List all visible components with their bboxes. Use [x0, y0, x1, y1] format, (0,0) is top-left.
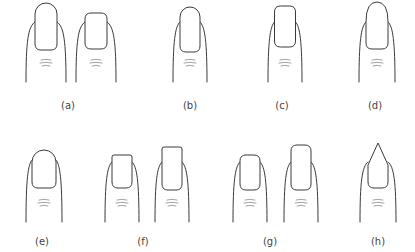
knuckle-crease [116, 199, 128, 206]
knuckle-crease [295, 199, 307, 206]
finger-pointed-icon [360, 143, 396, 222]
knuckle-crease [166, 199, 178, 206]
nail-oval [180, 7, 200, 52]
nail-round [32, 150, 56, 188]
panel-label-a: (a) [61, 100, 75, 111]
nail-short-rounded-square [85, 13, 107, 49]
panel-e [26, 150, 62, 222]
knuckle-crease [372, 199, 384, 206]
panel-label-g: (g) [263, 236, 277, 247]
nail-squoval-long [275, 6, 296, 47]
finger-squoval-icon [233, 155, 267, 222]
finger-round-icon [26, 150, 62, 222]
panel-label-b: (b) [183, 100, 197, 111]
knuckle-crease [40, 59, 52, 66]
panel-label-f: (f) [137, 236, 148, 247]
panel-label-d: (d) [368, 100, 382, 111]
nail-almond [366, 2, 388, 49]
finger-square-long-icon [155, 147, 189, 222]
knuckle-crease [184, 59, 196, 66]
finger-squoval-long-icon [268, 6, 302, 82]
finger-squoval-long-icon [284, 145, 318, 222]
finger-almond-icon [359, 2, 395, 82]
finger-long-oval-icon [26, 3, 66, 82]
fingernail-shapes-diagram [0, 0, 415, 252]
panel-label-e: (e) [35, 236, 49, 247]
knuckle-crease [90, 59, 102, 66]
panel-b [173, 7, 207, 82]
panel-d [359, 2, 395, 82]
panel-f [105, 147, 189, 222]
nail-squoval [240, 155, 260, 190]
knuckle-crease [279, 59, 291, 66]
panel-a [26, 3, 116, 82]
nail-pointed [368, 143, 388, 188]
nail-square-long [162, 147, 182, 190]
panel-label-c: (c) [275, 100, 288, 111]
knuckle-crease [38, 199, 50, 206]
panel-h [360, 143, 396, 222]
nail-squoval-long [291, 145, 311, 190]
nail-square [112, 155, 132, 188]
finger-oval-icon [173, 7, 207, 82]
knuckle-crease [371, 59, 383, 66]
nail-long-oval [35, 3, 57, 50]
panel-g [233, 145, 318, 222]
knuckle-crease [244, 199, 256, 206]
panel-label-h: (h) [371, 236, 385, 247]
finger-square-icon [105, 155, 139, 222]
panel-c [268, 6, 302, 82]
finger-short-rounded-square-icon [76, 13, 116, 82]
